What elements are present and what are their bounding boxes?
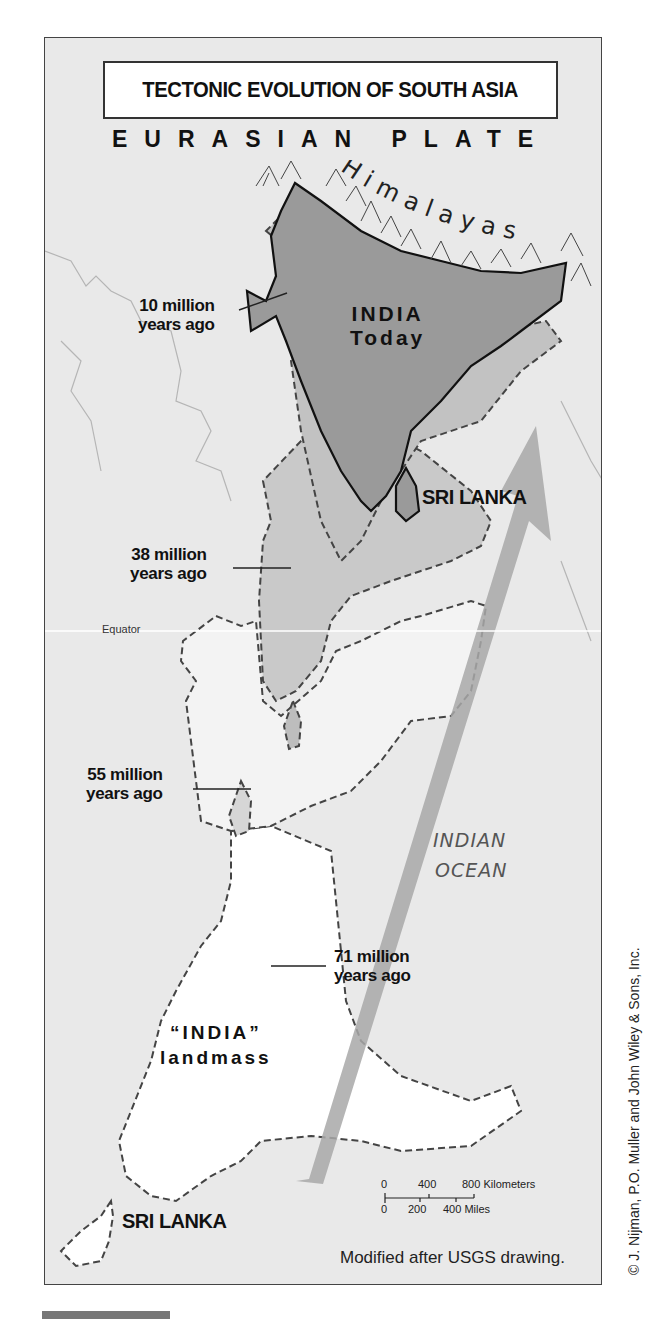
- eurasian-plate-label: EURASIAN PLATE: [112, 126, 550, 153]
- himalayas-label: Himalayas: [340, 160, 580, 270]
- scale-bar: [385, 1193, 474, 1203]
- india-landmass-label: “INDIA” landmass: [160, 1020, 272, 1070]
- age-label-55-mya: 55 million years ago: [86, 765, 163, 803]
- map-title-box: TECTONIC EVOLUTION OF SOUTH ASIA: [103, 61, 558, 119]
- source-note: Modified after USGS drawing.: [340, 1248, 565, 1268]
- age-label-71-mya: 71 million years ago: [334, 947, 411, 985]
- sri-lanka-71-mya: [61, 1201, 113, 1266]
- sri-lanka-today-label: SRI LANKA: [422, 486, 526, 509]
- age-label-38-mya: 38 million years ago: [130, 545, 207, 583]
- bottom-bar: [42, 1311, 170, 1319]
- map-title: TECTONIC EVOLUTION OF SOUTH ASIA: [143, 77, 518, 103]
- equator-label: Equator: [102, 623, 141, 635]
- age-label-10-mya: 10 million years ago: [138, 296, 215, 334]
- svg-text:Himalayas: Himalayas: [340, 160, 526, 246]
- sri-lanka-past-label: SRI LANKA: [122, 1210, 226, 1233]
- copyright-notice: © J. Nijman, P.O. Muller and John Wiley …: [626, 947, 642, 1275]
- indian-ocean-label: INDIAN OCEAN: [433, 825, 507, 885]
- india-today-label: INDIA Today: [350, 302, 425, 350]
